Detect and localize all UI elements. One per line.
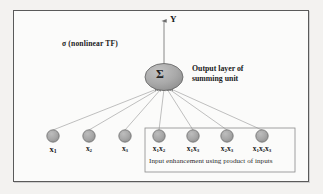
input-label-x3: x3 — [122, 145, 128, 153]
figure-canvas: Y σ (nonlinear TF) Σ Output layer of sum… — [0, 0, 323, 194]
edge-group — [53, 89, 262, 130]
input-node-x2 — [83, 130, 95, 142]
input-label-x2: x2 — [86, 145, 92, 153]
sigma-summation-glyph: Σ — [156, 68, 164, 80]
edge-x2x3-to-sum — [169, 89, 227, 130]
edge-x3-to-sum — [125, 89, 161, 130]
edge-x1x3-to-sum — [167, 89, 193, 130]
input-label-x1: x1 — [49, 145, 56, 155]
transfer-function-label: σ (nonlinear TF) — [62, 40, 118, 48]
input-node-x1 — [47, 130, 59, 142]
output-layer-label: Output layer of summing unit — [192, 64, 276, 85]
input-label-x1x3: x1x3 — [187, 145, 199, 153]
edge-x1-to-sum — [53, 89, 157, 130]
summing-unit-node — [145, 64, 183, 91]
input-node-x2x3 — [221, 130, 233, 142]
input-label-x2x3: x2x3 — [221, 145, 233, 153]
input-enhancement-caption: Input enhancement using product of input… — [149, 158, 273, 165]
edge-x1x2x3-to-sum — [171, 89, 262, 130]
input-node-x1x2 — [153, 130, 165, 142]
input-node-x1x2x3 — [256, 130, 268, 142]
edge-x1x2-to-sum — [159, 89, 164, 130]
input-node-x3 — [119, 130, 131, 142]
input-node-x1x3 — [187, 130, 199, 142]
input-label-x1x2x3: x1x2x3 — [253, 145, 272, 153]
edge-x2-to-sum — [89, 89, 159, 130]
input-node-group — [47, 130, 268, 142]
input-label-x1x2: x1x2 — [153, 145, 165, 153]
output-arrow-label: Y — [170, 15, 177, 24]
